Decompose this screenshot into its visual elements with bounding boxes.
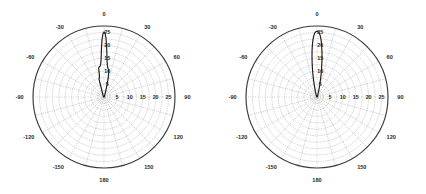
radial-tick-label-vertical: 10 (317, 68, 323, 74)
angle-tick-label: -90 (229, 94, 237, 100)
radial-tick-label-vertical: 25 (104, 29, 110, 35)
angle-tick-label: 30 (144, 24, 150, 30)
angle-tick-label: 180 (312, 177, 321, 183)
radial-tick-label-vertical: 10 (104, 68, 110, 74)
angle-tick-label: 180 (99, 177, 108, 183)
angle-tick-label: -120 (236, 134, 247, 140)
radial-tick-label-vertical: 5 (319, 81, 322, 87)
radial-tick-label-horizontal: 5 (328, 94, 331, 100)
radial-tick-label-horizontal: 15 (140, 94, 146, 100)
angle-tick-label: 90 (397, 94, 403, 100)
angle-tick-label: -30 (269, 24, 277, 30)
radial-tick-label-vertical: 25 (317, 29, 323, 35)
radial-tick-label-horizontal: 10 (340, 94, 346, 100)
angle-tick-label: 0 (102, 11, 105, 17)
angle-tick-label: -60 (26, 54, 34, 60)
polar-axes-left: 0306090120150180-150-120-90-60-305510101… (0, 0, 213, 194)
radial-tick-label-horizontal: 10 (127, 94, 133, 100)
radial-tick-label-vertical: 15 (317, 55, 323, 61)
angle-tick-label: 150 (357, 164, 366, 170)
radial-tick-label-horizontal: 20 (366, 94, 372, 100)
polar-axes-right: 0306090120150180-150-120-90-60-305510101… (213, 0, 426, 194)
radial-tick-label-horizontal: 5 (115, 94, 118, 100)
polar-figure: 0306090120150180-150-120-90-60-305510101… (0, 0, 426, 194)
polar-plot-left: 0306090120150180-150-120-90-60-305510101… (0, 0, 213, 194)
radial-tick-label-vertical: 5 (106, 81, 109, 87)
angle-tick-label: -150 (266, 164, 277, 170)
angle-tick-label: 150 (144, 164, 153, 170)
angle-tick-label: 0 (315, 11, 318, 17)
radial-tick-label-vertical: 20 (317, 42, 323, 48)
polar-plot-right: 0306090120150180-150-120-90-60-305510101… (213, 0, 426, 194)
radial-tick-label-vertical: 15 (104, 55, 110, 61)
angle-tick-label: -120 (23, 134, 34, 140)
angle-tick-label: -30 (56, 24, 64, 30)
angle-tick-label: 30 (357, 24, 363, 30)
angle-tick-label: 90 (184, 94, 190, 100)
radial-tick-label-horizontal: 25 (166, 94, 172, 100)
radial-tick-label-horizontal: 15 (353, 94, 359, 100)
radial-tick-label-horizontal: 20 (153, 94, 159, 100)
angle-tick-label: 120 (387, 134, 396, 140)
angle-tick-label: 120 (174, 134, 183, 140)
angle-tick-label: -90 (16, 94, 24, 100)
angle-tick-label: -60 (239, 54, 247, 60)
radial-tick-label-horizontal: 25 (379, 94, 385, 100)
radial-tick-label-vertical: 20 (104, 42, 110, 48)
angle-tick-label: 60 (174, 54, 180, 60)
angle-tick-label: -150 (53, 164, 64, 170)
angle-tick-label: 60 (387, 54, 393, 60)
